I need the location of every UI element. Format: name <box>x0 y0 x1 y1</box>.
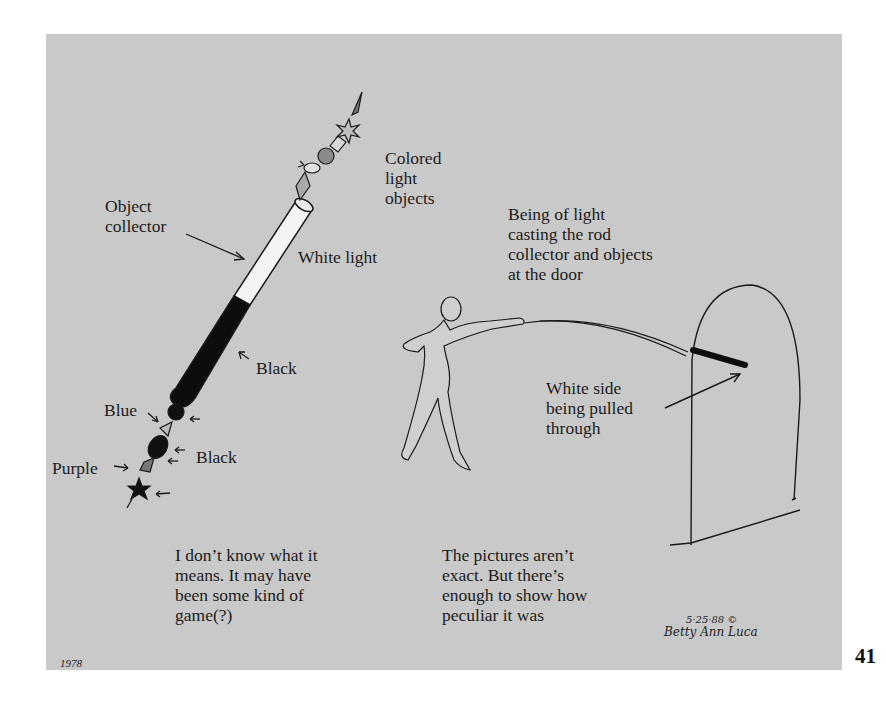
being-of-light-figure <box>402 297 688 470</box>
label-black-upper: Black <box>256 358 297 378</box>
label-black-lower: Black <box>196 447 237 467</box>
caption-right: The pictures aren’t exact. But there’s e… <box>442 545 587 625</box>
page-number: 41 <box>855 644 876 669</box>
rod-in-door <box>693 350 745 365</box>
label-object-collector: Object collector <box>105 196 166 236</box>
label-white-side: White side being pulled through <box>546 378 633 438</box>
label-colored-light-objects: Colored light objects <box>385 148 441 208</box>
label-blue: Blue <box>104 400 137 420</box>
signature: 5·25·88 © Betty Ann Luca <box>664 613 758 639</box>
signature-name: Betty Ann Luca <box>664 625 758 639</box>
year-annotation: 1978 <box>60 657 82 669</box>
doorway <box>670 285 800 545</box>
colored-light-objects <box>296 92 362 200</box>
caption-left: I don’t know what it means. It may have … <box>175 545 318 625</box>
label-white-light: White light <box>298 247 377 267</box>
white-side-arrow <box>665 374 740 408</box>
label-being-of-light: Being of light casting the rod collector… <box>508 204 653 284</box>
label-purple: Purple <box>52 458 98 478</box>
